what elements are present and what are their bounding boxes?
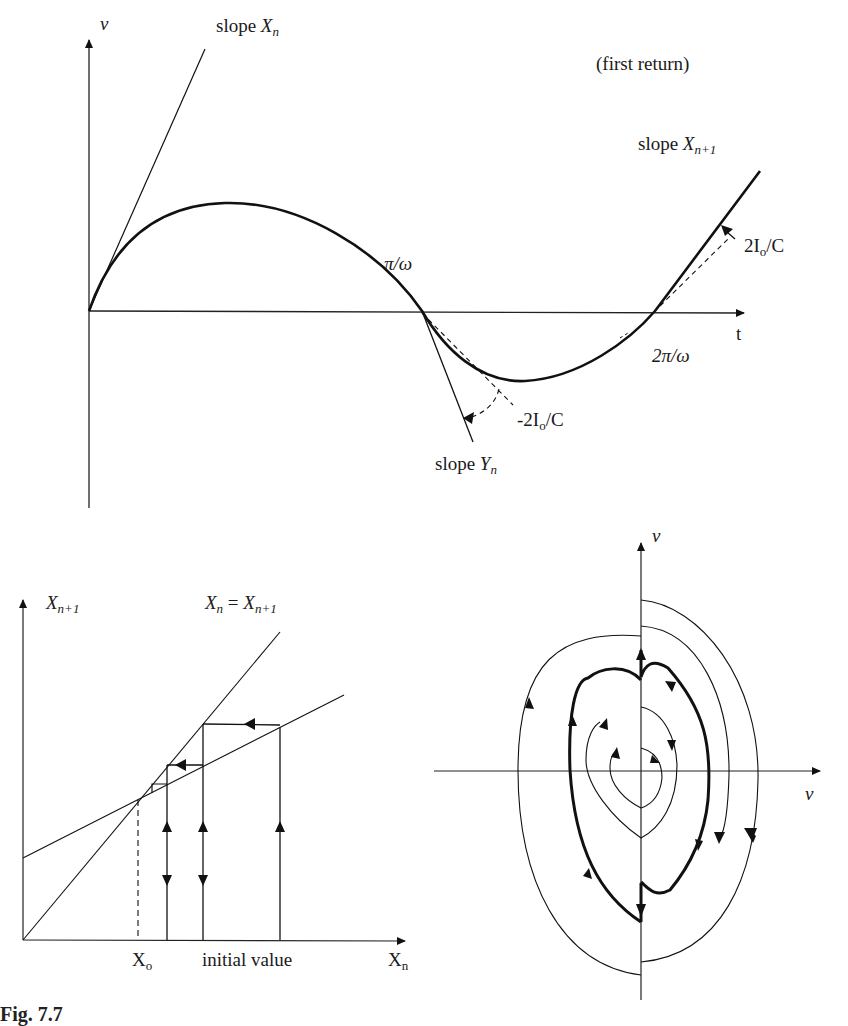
slope-xn-tangent: [89, 49, 205, 311]
top-waveform-panel: [89, 40, 760, 508]
fixed-point-label: Xo: [132, 950, 152, 972]
slope-yn-tangent: [422, 311, 473, 442]
figure-caption: Fig. 7.7: [0, 1003, 63, 1026]
limit-cycle: [570, 650, 709, 922]
pos-jump-arrowhead: [721, 225, 733, 236]
negative-jump-label: -2Io/C: [517, 410, 564, 432]
slope-yn-label: slope Yn: [435, 454, 497, 476]
t-axis: [89, 311, 744, 313]
second-trajectory-right: [641, 626, 729, 838]
phase-portrait-panel: [434, 543, 820, 1000]
outer-trajectory-right: [641, 600, 758, 962]
xn1-axis-label: Xn+1: [46, 593, 79, 615]
return-map-line: [23, 695, 344, 858]
slope-xn1-label: slope Xn+1: [638, 134, 716, 156]
slope-xn-label: slope Xn: [216, 16, 279, 38]
dashed-continuation-pi: [422, 313, 513, 405]
phase-v-vertical-label: v: [652, 526, 660, 545]
xn-axis: [23, 940, 405, 941]
cobweb-panel: [23, 600, 405, 941]
xn-axis-label: Xn: [388, 950, 408, 972]
cobweb-horizontal-1: [203, 724, 280, 725]
top-v-axis-label: v: [100, 14, 108, 33]
dashed-continuation-2pi: [660, 237, 730, 306]
diagonal-label: Xn = Xn+1: [205, 593, 277, 615]
t-axis-label: t: [736, 324, 741, 343]
initial-value-label: initial value: [202, 950, 292, 969]
phase-v-horizontal-label: v: [805, 784, 813, 803]
positive-jump-label: 2Io/C: [744, 236, 784, 258]
first-return-annotation: (first return): [596, 54, 689, 73]
two-pi-over-omega-label: 2π/ω: [652, 346, 690, 365]
pi-over-omega-label: π/ω: [384, 254, 412, 273]
